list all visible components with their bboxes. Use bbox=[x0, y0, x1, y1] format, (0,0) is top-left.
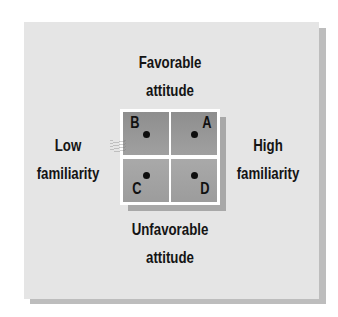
quadrant-letter: C bbox=[132, 181, 141, 197]
quadrant-letter: B bbox=[130, 115, 139, 131]
axis-label-favorable-attitude: Favorable attitude bbox=[123, 49, 217, 105]
axis-label-line: Low bbox=[21, 132, 115, 160]
axis-label-line: Favorable bbox=[123, 49, 217, 77]
dot-marker-icon bbox=[191, 172, 198, 179]
quadrant-grid: B A C D bbox=[120, 109, 220, 205]
axis-label-unfavorable-attitude: Unfavorable attitude bbox=[115, 216, 224, 272]
quadrant-b: B bbox=[123, 112, 169, 155]
dot-marker-icon bbox=[191, 131, 198, 138]
axis-label-line: attitude bbox=[123, 77, 217, 105]
quadrant-c: C bbox=[123, 159, 169, 202]
axis-label-line: Unfavorable bbox=[115, 216, 224, 244]
axis-label-line: High bbox=[221, 132, 315, 160]
axis-label-line: familiarity bbox=[221, 160, 315, 188]
axis-label-high-familiarity: High familiarity bbox=[221, 132, 315, 188]
dot-marker-icon bbox=[143, 172, 150, 179]
quadrant-d: D bbox=[171, 159, 217, 202]
dot-marker-icon bbox=[143, 131, 150, 138]
axis-label-low-familiarity: Low familiarity bbox=[21, 132, 115, 188]
quadrant-letter: A bbox=[202, 115, 211, 131]
quadrant-letter: D bbox=[200, 181, 209, 197]
axis-label-line: attitude bbox=[115, 244, 224, 272]
axis-label-line: familiarity bbox=[21, 160, 115, 188]
scan-smudge-artifact bbox=[110, 140, 126, 152]
quadrant-a: A bbox=[171, 112, 217, 155]
